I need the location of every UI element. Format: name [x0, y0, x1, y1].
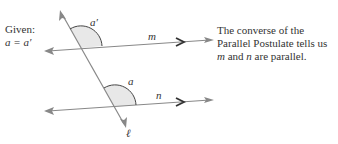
caption-line-3: m and n are parallel. [217, 50, 307, 63]
given-equation: a = a′ [5, 36, 31, 49]
diagram: Given: a = a′ a′ m a n ℓ The converse of… [0, 0, 338, 144]
angle-a-prime-label: a′ [90, 16, 98, 29]
line-m [48, 40, 210, 51]
caption-line-2: Parallel Postulate tells us [217, 37, 327, 50]
caption-m: m [217, 50, 225, 62]
caption-line-1: The converse of the [217, 24, 304, 37]
transversal-label: ℓ [126, 127, 131, 140]
caption-and: and [225, 50, 246, 62]
parallel-lines-figure [0, 0, 338, 144]
angle-a-label: a [128, 75, 134, 88]
given-label: Given: [5, 23, 35, 36]
caption-end: are parallel. [252, 50, 307, 62]
line-n-label: n [156, 89, 162, 102]
line-m-label: m [148, 30, 156, 43]
